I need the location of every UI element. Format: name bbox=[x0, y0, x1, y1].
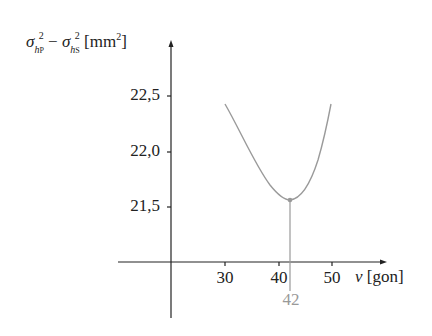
y-axis-label: σhP2 − σhS2 [mm2] bbox=[26, 30, 127, 55]
x-axis-arrow-icon bbox=[380, 260, 387, 265]
y-label-unit-open: [mm bbox=[80, 32, 116, 51]
y-axis-arrow-icon bbox=[169, 40, 174, 47]
y-tick-label-22-5: 22,5 bbox=[110, 85, 160, 105]
y-label-sub-h2: hS bbox=[70, 44, 79, 55]
x-tick-label-30: 30 bbox=[210, 268, 240, 288]
min-value-label: 42 bbox=[276, 290, 306, 310]
x-label-unit: [gon] bbox=[363, 267, 404, 286]
chart: σhP2 − σhS2 [mm2] 22,5 22,0 21,5 30 40 5… bbox=[0, 0, 432, 336]
x-label-var: v bbox=[355, 267, 363, 286]
y-label-minus: − bbox=[44, 32, 62, 51]
y-tick-label-22-0: 22,0 bbox=[110, 141, 160, 161]
y-tick-label-21-5: 21,5 bbox=[110, 196, 160, 216]
x-axis-label: v [gon] bbox=[355, 267, 404, 287]
y-label-sub-h: hP bbox=[34, 44, 43, 55]
curve-series bbox=[225, 104, 331, 200]
x-tick-label-40: 40 bbox=[264, 268, 294, 288]
min-point-marker bbox=[288, 198, 293, 203]
x-tick-label-50: 50 bbox=[317, 268, 347, 288]
y-label-unit-close: ] bbox=[121, 32, 127, 51]
